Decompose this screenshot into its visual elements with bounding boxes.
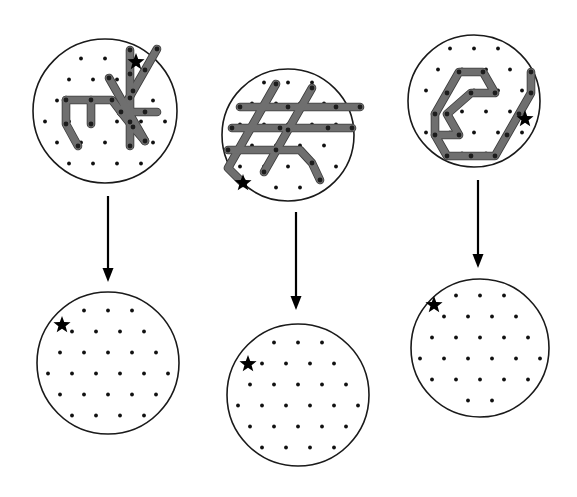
arrow-right bbox=[473, 180, 484, 268]
path-node bbox=[445, 154, 450, 159]
lattice-dot bbox=[424, 131, 428, 135]
lattice-dot bbox=[478, 378, 482, 382]
lattice-dot bbox=[502, 336, 506, 340]
lattice-dot bbox=[284, 446, 288, 450]
lattice-dot bbox=[418, 357, 422, 361]
lattice-dot bbox=[130, 393, 134, 397]
path-node bbox=[326, 126, 331, 131]
path-node bbox=[155, 47, 160, 52]
lattice-dot bbox=[115, 78, 119, 82]
lattice-dot bbox=[43, 120, 47, 124]
lattice-dot bbox=[55, 99, 59, 103]
lattice-dot bbox=[94, 372, 98, 376]
path-node bbox=[238, 105, 243, 110]
lattice-dot bbox=[103, 141, 107, 145]
path-node bbox=[110, 98, 115, 103]
lattice-dot bbox=[91, 78, 95, 82]
path-node bbox=[481, 70, 486, 75]
lattice-dot bbox=[67, 78, 71, 82]
path-node bbox=[131, 89, 136, 94]
path-node bbox=[350, 126, 355, 131]
path-node bbox=[89, 98, 94, 103]
lattice-dot bbox=[286, 81, 290, 85]
lattice-dot bbox=[320, 425, 324, 429]
path-node bbox=[286, 128, 291, 133]
lattice-dot bbox=[58, 393, 62, 397]
lattice-dot bbox=[436, 68, 440, 72]
lattice-dot bbox=[526, 336, 530, 340]
path-node bbox=[64, 122, 69, 127]
lattice-dot bbox=[272, 425, 276, 429]
lattice-dot bbox=[284, 362, 288, 366]
lattice-dot bbox=[466, 399, 470, 403]
lattice-dot bbox=[508, 68, 512, 72]
lattice-dot bbox=[460, 110, 464, 114]
lattice-dot bbox=[70, 330, 74, 334]
lattice-dot bbox=[430, 378, 434, 382]
lattice-dot bbox=[82, 351, 86, 355]
lattice-dot bbox=[454, 294, 458, 298]
circle-outline bbox=[227, 324, 369, 466]
path-node bbox=[505, 133, 510, 138]
lattice-dot bbox=[238, 165, 242, 169]
path-node bbox=[128, 144, 133, 149]
lattice-path-diagram: Three columns. Top row: circular dot lat… bbox=[0, 0, 577, 497]
path-node bbox=[529, 70, 534, 75]
lattice-dot bbox=[91, 162, 95, 166]
path-node bbox=[310, 161, 315, 166]
lattice-dot bbox=[106, 393, 110, 397]
arrow-left bbox=[103, 196, 114, 282]
path-node bbox=[119, 110, 124, 115]
lattice-dot bbox=[332, 362, 336, 366]
lattice-dot bbox=[260, 362, 264, 366]
lattice-dot bbox=[502, 378, 506, 382]
lattice-dot bbox=[472, 131, 476, 135]
lattice-dot bbox=[472, 47, 476, 51]
lattice-dot bbox=[115, 162, 119, 166]
lattice-dot bbox=[448, 47, 452, 51]
path-node bbox=[128, 96, 133, 101]
lattice-dot bbox=[130, 351, 134, 355]
lattice-dot bbox=[526, 378, 530, 382]
lattice-dot bbox=[94, 330, 98, 334]
lattice-dot bbox=[442, 357, 446, 361]
lattice-dot bbox=[466, 357, 470, 361]
path-node bbox=[107, 76, 112, 81]
path-node bbox=[89, 122, 94, 127]
path-node bbox=[334, 105, 339, 110]
lattice-dot bbox=[67, 162, 71, 166]
lattice-dot bbox=[298, 186, 302, 190]
lattice-dot bbox=[139, 162, 143, 166]
lattice-dot bbox=[320, 341, 324, 345]
path-node bbox=[310, 86, 315, 91]
lattice-dot bbox=[320, 383, 324, 387]
lattice-dot bbox=[248, 425, 252, 429]
path-node bbox=[433, 112, 438, 117]
lattice-dot bbox=[496, 47, 500, 51]
lattice-dot bbox=[106, 351, 110, 355]
lattice-dot bbox=[490, 357, 494, 361]
arrow-head-icon bbox=[103, 268, 114, 282]
path-node bbox=[131, 125, 136, 130]
path-node bbox=[230, 126, 235, 131]
path-node bbox=[128, 48, 133, 53]
path-node bbox=[278, 126, 283, 131]
lattice-dot bbox=[308, 404, 312, 408]
panels-layer bbox=[33, 35, 549, 466]
lattice-dot bbox=[502, 294, 506, 298]
bottom-middle-circle bbox=[227, 324, 369, 466]
lattice-dot bbox=[284, 404, 288, 408]
path-node bbox=[128, 120, 133, 125]
lattice-dot bbox=[356, 404, 360, 408]
lattice-dot bbox=[296, 341, 300, 345]
path-node bbox=[274, 82, 279, 87]
path-node bbox=[445, 112, 450, 117]
lattice-dot bbox=[308, 362, 312, 366]
lattice-dot bbox=[332, 404, 336, 408]
lattice-dot bbox=[46, 372, 50, 376]
lattice-dot bbox=[260, 404, 264, 408]
top-right-circle bbox=[408, 35, 540, 167]
bottom-left-circle bbox=[37, 292, 179, 434]
lattice-dot bbox=[142, 372, 146, 376]
path-node bbox=[445, 91, 450, 96]
